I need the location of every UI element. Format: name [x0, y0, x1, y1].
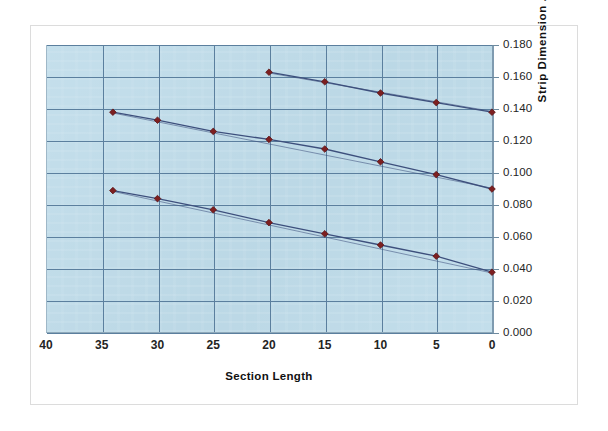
- gridline-vertical: [437, 45, 438, 332]
- y-axis-tick-label: 0.140: [503, 103, 532, 115]
- y-axis-tick: [492, 205, 499, 206]
- y-axis-tick-label: 0.160: [503, 71, 532, 83]
- x-axis-title: Section Length: [46, 370, 492, 382]
- gridline-vertical: [103, 45, 104, 332]
- y-axis-tick: [492, 77, 499, 78]
- y-axis-tick: [492, 269, 499, 270]
- x-axis-tick-label: 15: [318, 339, 331, 351]
- chart-page: 0.0000.0200.0400.0600.0800.1000.1200.140…: [0, 0, 608, 431]
- chart-canvas: 0.0000.0200.0400.0600.0800.1000.1200.140…: [0, 0, 608, 431]
- x-axis-tick-label: 30: [151, 339, 164, 351]
- y-axis-tick-label: 0.020: [503, 295, 532, 307]
- y-axis-tick-label: 0.080: [503, 199, 532, 211]
- gridline-vertical: [382, 45, 383, 332]
- y-axis-tick: [492, 237, 499, 238]
- y-axis-tick: [492, 45, 499, 46]
- gridline-vertical: [326, 45, 327, 332]
- y-axis-tick-label: 0.120: [503, 135, 532, 147]
- gridline-vertical: [159, 45, 160, 332]
- y-axis-tick-label: 0.180: [503, 39, 532, 51]
- y-axis-tick: [492, 301, 499, 302]
- x-axis-tick-label: 35: [95, 339, 108, 351]
- y-axis-line: [492, 45, 494, 334]
- plot-area: [46, 45, 492, 333]
- y-axis-tick-label: 0.100: [503, 167, 532, 179]
- y-axis-title: Strip Dimension .: [536, 0, 548, 120]
- y-axis-tick: [492, 109, 499, 110]
- y-axis-tick: [492, 333, 499, 334]
- x-axis-tick-label: 20: [262, 339, 275, 351]
- y-axis-tick: [492, 173, 499, 174]
- x-axis-tick-label: 10: [374, 339, 387, 351]
- x-axis-tick-label: 5: [433, 339, 440, 351]
- gridline-vertical: [214, 45, 215, 332]
- gridline-vertical: [270, 45, 271, 332]
- x-axis-tick-label: 0: [489, 339, 496, 351]
- y-axis-tick-label: 0.000: [503, 327, 532, 339]
- x-axis-tick-label: 40: [39, 339, 52, 351]
- x-axis-tick-label: 25: [207, 339, 220, 351]
- gridline-horizontal: [47, 333, 492, 334]
- y-axis-tick: [492, 141, 499, 142]
- y-axis-tick-label: 0.060: [503, 231, 532, 243]
- y-axis-tick-label: 0.040: [503, 263, 532, 275]
